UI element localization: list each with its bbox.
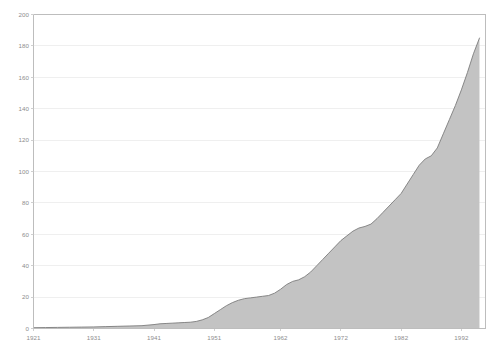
y-tick-label: 80 [22,199,30,206]
y-tick-label: 120 [18,136,29,143]
y-tick-label: 180 [18,42,29,49]
series-area-cumulative [34,38,480,328]
y-tick-label: 20 [22,293,30,300]
area-fill-path [34,38,480,328]
y-tick-label: 160 [18,74,29,81]
chart-container: 020406080100120140160180200 192119311941… [0,0,492,356]
x-tick-label: 1992 [454,334,469,341]
y-tick-label: 100 [18,168,29,175]
y-tick-label: 40 [22,262,30,269]
y-tick-label: 140 [18,105,29,112]
x-tick-label: 1921 [26,334,41,341]
x-tick-label: 1941 [147,334,162,341]
x-axis-tick-labels: 19211931194119511962197219821992 [26,334,469,341]
x-tick-label: 1962 [274,334,289,341]
y-tick-label: 0 [25,325,29,332]
x-tick-label: 1972 [334,334,349,341]
x-tick-label: 1931 [87,334,102,341]
y-tick-label: 200 [18,11,29,18]
y-axis-tick-labels: 020406080100120140160180200 [18,11,29,332]
chart-svg: 020406080100120140160180200 192119311941… [0,0,492,356]
x-tick-label: 1951 [207,334,222,341]
x-tick-label: 1982 [394,334,409,341]
area-chart: 020406080100120140160180200 192119311941… [0,0,492,356]
y-tick-label: 60 [22,231,30,238]
